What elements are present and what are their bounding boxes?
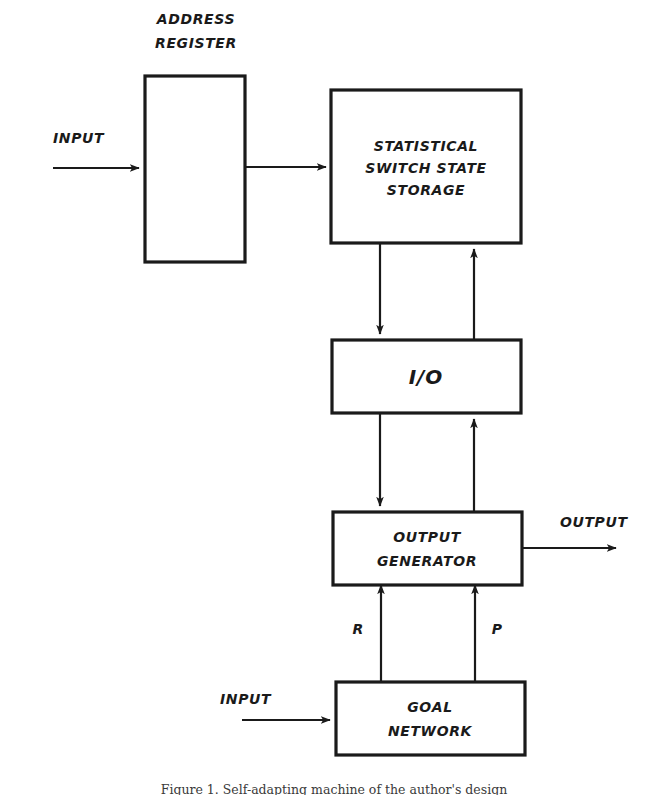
goal-network-label-line1: GOAL <box>407 699 453 715</box>
node-goal-network[interactable] <box>336 682 525 755</box>
storage-label-line2: SWITCH STATE <box>365 160 487 176</box>
node-output-generator[interactable] <box>333 512 522 585</box>
output-generator-label-line1: OUTPUT <box>393 529 461 545</box>
address-register-title-line2: REGISTER <box>155 35 237 51</box>
figure-caption: Figure 1. Self-adapting machine of the a… <box>0 783 668 795</box>
storage-label-line1: STATISTICAL <box>374 138 478 154</box>
label-signal-p: P <box>492 621 503 637</box>
label-input-bottom: INPUT <box>220 691 272 707</box>
goal-network-label-line2: NETWORK <box>388 723 473 739</box>
output-generator-label-line2: GENERATOR <box>377 553 477 569</box>
io-label: I/O <box>409 365 444 389</box>
label-output-right: OUTPUT <box>560 514 628 530</box>
storage-label-line3: STORAGE <box>387 182 465 198</box>
figure-root: ADDRESS REGISTER INPUT STATISTICAL SWITC… <box>0 0 668 795</box>
node-address-register[interactable] <box>145 76 245 262</box>
label-signal-r: R <box>353 621 364 637</box>
block-diagram-canvas: ADDRESS REGISTER INPUT STATISTICAL SWITC… <box>0 0 668 795</box>
label-input-top: INPUT <box>53 130 105 146</box>
address-register-title-line1: ADDRESS <box>156 11 235 27</box>
